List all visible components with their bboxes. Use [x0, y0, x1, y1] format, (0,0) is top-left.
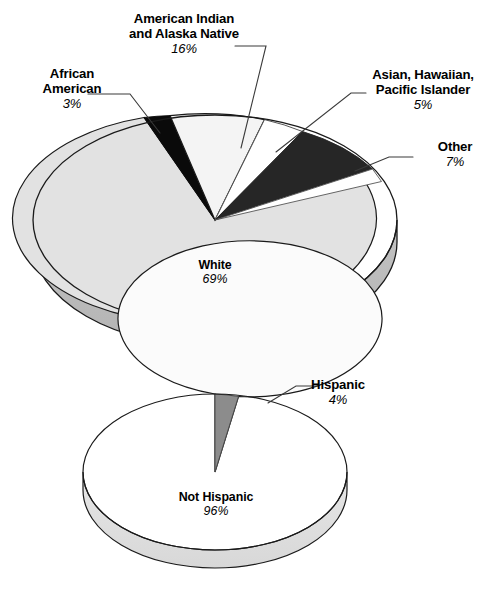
- label-hispanic-name: Hispanic: [290, 378, 386, 393]
- label-american-indian-line2: and Alaska Native: [96, 27, 272, 42]
- label-other-name: Other: [420, 140, 490, 155]
- label-asian-hawaiian-pacific-islander: Asian, Hawaiian, Pacific Islander 5%: [352, 68, 494, 113]
- label-american-indian-and-alaska-native: American Indian and Alaska Native 16%: [96, 12, 272, 57]
- label-white: White 69%: [160, 258, 270, 286]
- label-african-american-percent: 3%: [10, 97, 134, 112]
- label-white-name: White: [160, 258, 270, 272]
- label-other-percent: 7%: [420, 155, 490, 170]
- label-asian-percent: 5%: [352, 98, 494, 113]
- label-hispanic-percent: 4%: [290, 393, 386, 408]
- label-asian-line1: Asian, Hawaiian,: [352, 68, 494, 83]
- label-african-american-line1: African: [10, 67, 134, 82]
- label-american-indian-line1: American Indian: [96, 12, 272, 27]
- label-white-percent: 69%: [160, 272, 270, 286]
- label-american-indian-percent: 16%: [96, 42, 272, 57]
- label-asian-line2: Pacific Islander: [352, 83, 494, 98]
- label-not-hispanic-percent: 96%: [155, 504, 277, 518]
- label-other: Other 7%: [420, 140, 490, 170]
- label-hispanic: Hispanic 4%: [290, 378, 386, 408]
- slice-hispanic: [215, 394, 239, 472]
- label-african-american: African American 3%: [10, 67, 134, 112]
- label-african-american-line2: American: [10, 82, 134, 97]
- label-not-hispanic: Not Hispanic 96%: [155, 490, 277, 518]
- pie-chart-figure: American Indian and Alaska Native 16% Af…: [0, 0, 498, 598]
- ethnicity-pie-side-wall: [83, 472, 347, 568]
- label-not-hispanic-name: Not Hispanic: [155, 490, 277, 504]
